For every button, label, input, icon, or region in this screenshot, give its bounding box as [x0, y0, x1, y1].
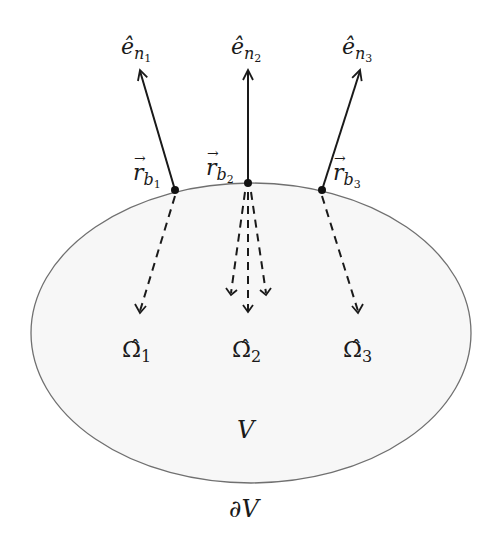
boundary-point-1 — [171, 186, 179, 194]
svg-text:rb2: rb2 — [206, 155, 234, 186]
position-label-1: → rb1 — [133, 150, 161, 191]
interior-label: V — [237, 416, 257, 444]
position-label-3: → rb3 — [333, 150, 361, 191]
svg-text:rb3: rb3 — [333, 160, 361, 191]
boundary-normals-diagram: ên1 ên2 ên3 → rb1 → rb2 → rb3 Ω̂1 Ω̂2 Ω̂… — [0, 0, 491, 539]
normal-label-1: ên1 — [121, 34, 151, 65]
boundary-point-3 — [318, 186, 326, 194]
normal-label-3: ên3 — [342, 34, 372, 65]
position-label-2: → rb2 — [206, 145, 234, 186]
boundary-point-2 — [244, 179, 252, 187]
boundary-label: ∂V — [229, 495, 261, 523]
normal-label-2: ên2 — [231, 34, 261, 65]
svg-text:rb1: rb1 — [133, 160, 161, 191]
